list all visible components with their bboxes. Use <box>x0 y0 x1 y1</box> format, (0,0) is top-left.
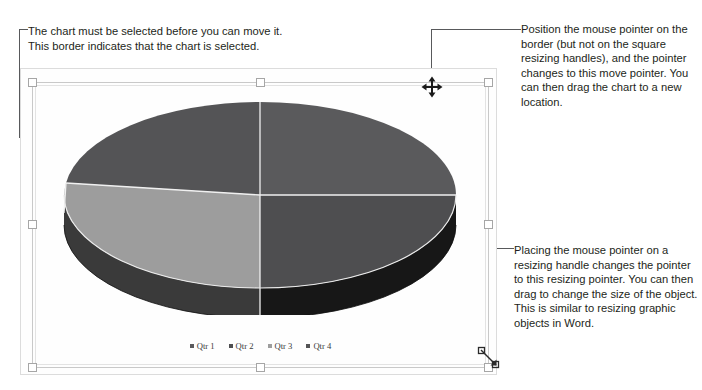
chart-plot-area-border <box>35 85 486 365</box>
resize-handle-bottom-left[interactable] <box>28 363 37 372</box>
resize-handle-bottom-center[interactable] <box>256 363 265 372</box>
resize-handle-middle-right[interactable] <box>484 220 493 229</box>
leader-line-selection-top-stub <box>19 29 28 30</box>
leader-line-move-elbow <box>431 29 506 30</box>
resize-handle-middle-left[interactable] <box>28 220 37 229</box>
move-pointer-icon <box>420 75 444 103</box>
annotation-selection-text: The chart must be selected before you ca… <box>28 24 358 53</box>
resize-handle-top-right[interactable] <box>484 78 493 87</box>
resize-handle-top-left[interactable] <box>28 78 37 87</box>
resize-handle-top-center[interactable] <box>256 78 265 87</box>
leader-line-resize-horizontal <box>498 248 514 249</box>
annotation-move-pointer-text: Position the mouse pointer on the border… <box>521 22 697 110</box>
resize-diagonal-pointer-icon <box>476 345 502 375</box>
annotation-resize-pointer-text: Placing the mouse pointer on a resizing … <box>514 243 700 331</box>
leader-line-move-horizontal <box>505 29 521 30</box>
